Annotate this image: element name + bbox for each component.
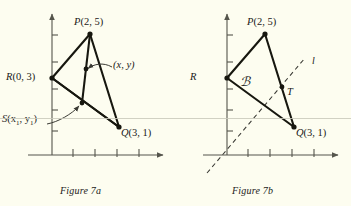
point-s-dot	[80, 101, 85, 106]
figure-7a-label-q: Q(3, 1)	[121, 128, 151, 139]
figure-7a-caption: Figure 7a	[60, 186, 101, 196]
figure-7a-label-r: R(0, 3)	[6, 72, 35, 83]
figure-7a-label-p: P(2, 5)	[74, 17, 103, 28]
figure-sheet: P(2, 5) R(0, 3) Q(3, 1) (x, y) S(x1, y1)…	[0, 0, 351, 206]
figure-7a-label-xy: (x, y)	[113, 60, 135, 71]
figure-7b-label-r: R	[190, 72, 196, 83]
figure-7a-label-s: S(x1, y1)	[2, 114, 37, 127]
figure-7b-label-region-k: ℬ	[240, 75, 250, 88]
point-p-dot	[262, 31, 267, 36]
figure-7a-cevians	[52, 34, 119, 127]
figure-7b-label-p: P(2, 5)	[247, 17, 276, 28]
point-r-dot	[49, 75, 54, 80]
figure-7b-label-t: T	[287, 87, 293, 98]
figure-7b-label-line-l: l	[312, 56, 315, 66]
figure-7b-triangle	[227, 34, 294, 127]
midpoint-xy-dot	[84, 67, 89, 72]
point-p-dot	[87, 31, 92, 36]
scan-artifact-line	[0, 118, 351, 119]
point-r-dot	[224, 75, 229, 80]
point-t-dot	[280, 85, 285, 90]
figure-7b-caption: Figure 7b	[232, 186, 273, 196]
figure-7b-label-q: Q(3, 1)	[296, 128, 326, 139]
